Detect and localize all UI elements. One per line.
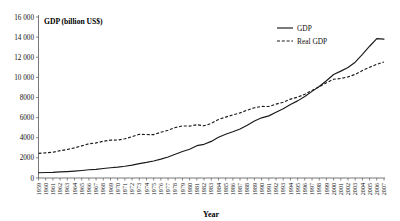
legend-label-gdp: GDP xyxy=(297,24,312,33)
x-tick-label: 1994 xyxy=(288,183,294,195)
series-gdp xyxy=(39,39,385,173)
x-tick-label: 1978 xyxy=(172,183,178,195)
x-tick-label: 1961 xyxy=(50,183,56,195)
y-tick-label: 10 000 xyxy=(14,74,34,82)
x-tick-label: 2001 xyxy=(338,183,344,195)
chart-legend: GDPReal GDP xyxy=(277,24,327,46)
x-tick-label: 2000 xyxy=(331,183,337,195)
gdp-line-chart: 0200040006000800010 00012 00014 00016 00… xyxy=(0,0,400,221)
x-tick-label: 1999 xyxy=(324,183,330,195)
y-tick-label: 8000 xyxy=(20,94,35,102)
x-axis-group: 1959196019611962196319641965196619671968… xyxy=(36,178,388,195)
y-tick-label: 16 000 xyxy=(14,14,34,22)
x-tick-label: 1983 xyxy=(208,183,214,195)
x-tick-label: 1982 xyxy=(201,183,207,195)
x-tick-label: 1976 xyxy=(158,183,164,195)
y-tick-label: 14 000 xyxy=(14,34,34,42)
legend-label-real-gdp: Real GDP xyxy=(297,37,327,46)
x-tick-label: 2002 xyxy=(345,183,351,195)
y-tick-label: 2000 xyxy=(20,154,35,162)
x-tick-label: 1969 xyxy=(108,183,114,195)
x-tick-label: 1985 xyxy=(223,183,229,195)
x-tick-label: 1962 xyxy=(57,183,63,195)
x-tick-label: 1991 xyxy=(266,183,272,195)
x-tick-label: 2005 xyxy=(367,183,373,195)
x-tick-label: 1995 xyxy=(295,183,301,195)
x-tick-label: 1989 xyxy=(252,183,258,195)
x-tick-label: 1973 xyxy=(136,183,142,195)
y-tick-label: 4000 xyxy=(20,134,35,142)
x-tick-label: 1964 xyxy=(72,183,78,195)
x-tick-label: 1990 xyxy=(259,183,265,195)
x-tick-label: 1997 xyxy=(309,183,315,195)
x-tick-label: 1980 xyxy=(187,183,193,195)
x-tick-label: 1959 xyxy=(36,183,42,195)
x-tick-label: 1992 xyxy=(273,183,279,195)
x-tick-label: 2006 xyxy=(374,183,380,195)
data-series-group xyxy=(39,39,385,173)
x-tick-label: 1972 xyxy=(129,183,135,195)
x-tick-label: 2003 xyxy=(352,183,358,195)
x-tick-label: 1987 xyxy=(237,183,243,195)
x-tick-label: 1967 xyxy=(93,183,99,195)
x-tick-label: 1975 xyxy=(151,183,157,195)
y-axis-group: 0200040006000800010 00012 00014 00016 00… xyxy=(14,14,38,183)
x-tick-label: 1965 xyxy=(79,183,85,195)
chart-title: GDP (billion US$) xyxy=(44,17,103,26)
x-tick-label: 1979 xyxy=(180,183,186,195)
x-axis-title: Year xyxy=(203,210,219,219)
x-tick-label: 1966 xyxy=(86,183,92,195)
y-tick-labels: 0200040006000800010 00012 00014 00016 00… xyxy=(14,14,34,183)
x-tick-label: 1998 xyxy=(316,183,322,195)
x-tick-label: 1960 xyxy=(43,183,49,195)
x-tick-label: 1996 xyxy=(302,183,308,195)
x-tick-label: 1970 xyxy=(115,183,121,195)
x-tick-label: 1971 xyxy=(122,183,128,195)
x-tick-label: 1986 xyxy=(230,183,236,195)
x-tick-label: 1974 xyxy=(144,183,150,195)
x-tick-label: 1977 xyxy=(165,183,171,195)
y-tick-label: 0 xyxy=(30,175,34,183)
x-tick-label: 1984 xyxy=(216,183,222,195)
x-tick-labels: 1959196019611962196319641965196619671968… xyxy=(36,183,388,195)
x-tick-label: 1993 xyxy=(280,183,286,195)
x-tick-label: 1988 xyxy=(244,183,250,195)
x-tick-label: 2004 xyxy=(360,183,366,195)
x-tick-label: 1981 xyxy=(194,183,200,195)
chart-canvas: 0200040006000800010 00012 00014 00016 00… xyxy=(0,0,400,221)
x-tick-label: 1968 xyxy=(100,183,106,195)
y-tick-label: 6000 xyxy=(20,114,35,122)
x-tick-label: 1963 xyxy=(64,183,70,195)
y-tick-label: 12 000 xyxy=(14,54,34,62)
x-tick-label: 2007 xyxy=(381,183,387,195)
